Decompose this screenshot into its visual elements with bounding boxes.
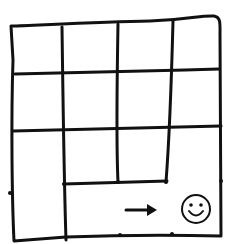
right-arrow-icon [126,204,157,216]
vertical-line-1 [62,27,66,240]
horizontal-line-3-partial [64,181,167,184]
grid-maze-diagram [0,0,225,244]
tick-dot [170,232,174,236]
tick-dot [118,233,122,237]
tick-dot [62,182,66,186]
vertical-line-3 [166,21,173,182]
tick-marks [8,179,223,237]
tick-dot [116,180,120,184]
vertical-line-2 [117,24,118,182]
tick-dot [219,179,223,183]
tick-dot [164,180,168,184]
smiley-face-icon [182,195,210,223]
tick-dot [8,191,12,195]
grid-lines [13,21,221,240]
